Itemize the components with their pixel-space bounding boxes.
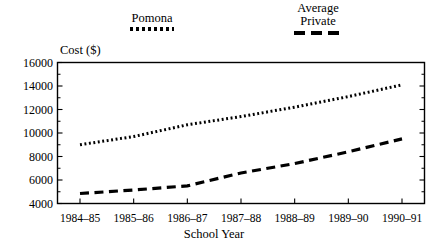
series-line-average-private: [80, 139, 402, 194]
data-series-layer: [80, 85, 402, 194]
axis-frame: [58, 63, 425, 204]
series-line-pomona: [80, 85, 402, 145]
plot-border: [58, 63, 425, 204]
plot-area: [0, 0, 440, 248]
chart-figure: Pomona Average Private Cost ($) 40006000…: [0, 0, 440, 248]
axis-tick-marks: [58, 63, 425, 204]
